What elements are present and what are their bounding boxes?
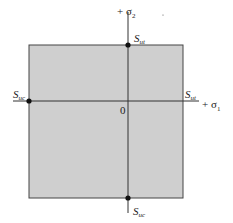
- axis-prefix: +: [202, 98, 211, 110]
- point-left-suc: [26, 98, 31, 103]
- label-top-sut: Sut: [134, 33, 145, 46]
- label-right-sut: Sut: [185, 89, 196, 102]
- axis-subscript: 1: [217, 105, 221, 113]
- sigma2-axis-label: + σ2: [117, 6, 135, 20]
- label-bottom-suc: Suc: [133, 206, 145, 219]
- origin-label: 0: [120, 105, 126, 116]
- point-subscript: uc: [19, 94, 26, 102]
- diagram-canvas: [0, 0, 233, 223]
- point-subscript: ut: [140, 38, 145, 46]
- label-left-suc: Suc: [13, 89, 25, 102]
- stray-dot: [162, 14, 163, 15]
- safe-region-square: [29, 45, 183, 198]
- point-top-sut: [125, 42, 130, 47]
- axis-prefix: +: [117, 5, 126, 17]
- point-subscript: ut: [191, 94, 196, 102]
- point-subscript: uc: [139, 211, 146, 219]
- point-bottom-suc: [125, 195, 130, 200]
- sigma1-axis-label: + σ1: [202, 99, 220, 113]
- axis-subscript: 2: [132, 12, 136, 20]
